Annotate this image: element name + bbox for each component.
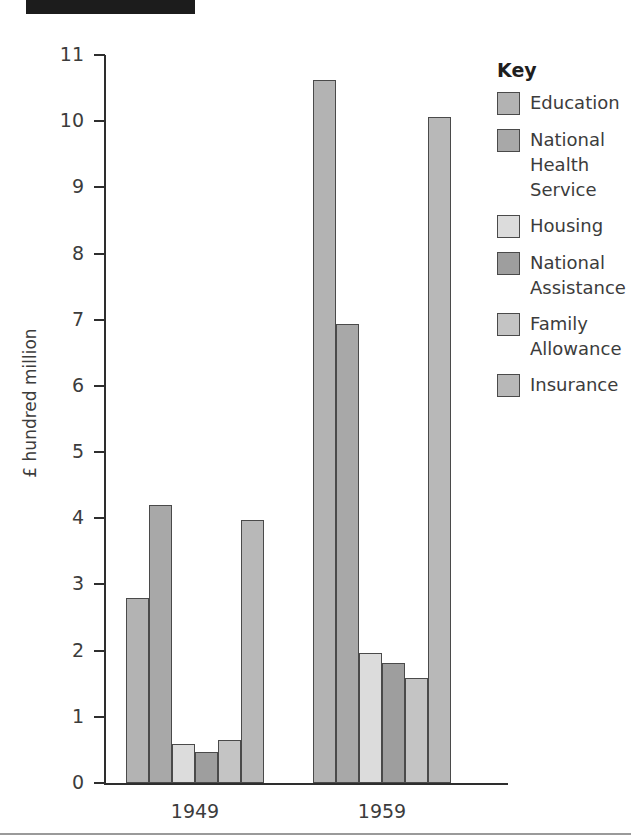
legend-item-education: Education (497, 90, 631, 116)
bar-insurance-1949 (241, 520, 264, 783)
bar-national-assistance-1949 (195, 752, 218, 783)
bar-education-1959 (313, 80, 336, 783)
bar-insurance-1959 (428, 117, 451, 783)
legend-item-national-assistance: National Assistance (497, 250, 631, 300)
legend-label: National Health Service (530, 127, 631, 202)
footer-rule (0, 833, 631, 835)
y-tick-label: 10 (30, 111, 84, 130)
x-axis-label-1949: 1949 (115, 800, 275, 822)
y-tick-mark (94, 782, 105, 784)
y-tick-mark (94, 54, 105, 56)
y-tick-label: 0 (30, 773, 84, 792)
legend-swatch (497, 92, 520, 115)
y-tick-label: 3 (30, 574, 84, 593)
legend-label: Family Allowance (530, 311, 631, 361)
y-tick-mark (94, 253, 105, 255)
y-tick-label: 8 (30, 244, 84, 263)
legend-swatch (497, 252, 520, 275)
y-tick-mark (94, 385, 105, 387)
legend-item-national-health-service: National Health Service (497, 127, 631, 202)
y-tick-label: 9 (30, 177, 84, 196)
chart-legend: Key EducationNational Health ServiceHous… (497, 60, 631, 409)
y-axis-line (104, 55, 106, 785)
y-tick-mark (94, 716, 105, 718)
chart-page: 01234567891011 £ hundred million 1949195… (0, 0, 631, 838)
y-tick-label: 2 (30, 641, 84, 660)
legend-swatch (497, 313, 520, 336)
bar-family-allowance-1949 (218, 740, 241, 783)
legend-item-family-allowance: Family Allowance (497, 311, 631, 361)
x-axis-label-1959: 1959 (302, 800, 462, 822)
legend-label: Education (530, 90, 631, 115)
legend-items: EducationNational Health ServiceHousingN… (497, 90, 631, 398)
y-tick-label: 11 (30, 45, 84, 64)
bar-national-health-service-1959 (336, 324, 359, 783)
y-tick-mark (94, 319, 105, 321)
legend-item-insurance: Insurance (497, 372, 631, 398)
y-tick-label: 1 (30, 707, 84, 726)
legend-swatch (497, 215, 520, 238)
legend-title: Key (497, 60, 631, 80)
y-tick-mark (94, 650, 105, 652)
bar-housing-1959 (359, 653, 382, 783)
legend-item-housing: Housing (497, 213, 631, 239)
legend-swatch (497, 374, 520, 397)
bar-family-allowance-1959 (405, 678, 428, 783)
y-tick-mark (94, 517, 105, 519)
bar-national-health-service-1949 (149, 505, 172, 783)
y-axis-title: £ hundred million (20, 293, 40, 513)
y-tick-mark (94, 451, 105, 453)
legend-label: Insurance (530, 372, 631, 397)
x-axis-line (104, 783, 508, 785)
y-tick-mark (94, 120, 105, 122)
legend-label: Housing (530, 213, 631, 238)
y-tick-mark (94, 583, 105, 585)
y-tick-mark (94, 186, 105, 188)
bar-housing-1949 (172, 744, 195, 783)
bar-education-1949 (126, 598, 149, 783)
legend-label: National Assistance (530, 250, 631, 300)
legend-swatch (497, 129, 520, 152)
bar-national-assistance-1959 (382, 663, 405, 783)
